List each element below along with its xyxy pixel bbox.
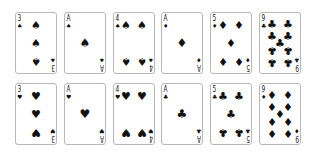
- heart-icon: ♥: [31, 91, 41, 102]
- card-3-of-hearts[interactable]: 3♥3♥♥♥♥: [15, 83, 57, 145]
- heart-icon: ♥: [137, 127, 147, 138]
- rank-label: 5: [245, 63, 249, 71]
- diamond-icon: ♦: [218, 20, 228, 31]
- card-a-of-clubs[interactable]: A♣A♣♣: [161, 83, 203, 145]
- rank-label: A: [99, 134, 103, 142]
- rank-label: A: [196, 134, 200, 142]
- club-icon: ♣: [234, 91, 244, 102]
- heart-icon: ♥: [17, 94, 22, 100]
- card-5-of-clubs[interactable]: 5♣5♣♣♣♣♣♣: [210, 83, 252, 145]
- club-icon: ♣: [283, 44, 293, 55]
- rank-label: 5: [245, 134, 249, 142]
- corner-index: A♥: [99, 128, 104, 142]
- club-icon: ♣: [261, 23, 266, 29]
- corner-index: 9♦: [294, 128, 299, 142]
- club-icon: ♣: [267, 44, 277, 55]
- heart-icon: ♥: [80, 108, 91, 120]
- corner-index: 3♠: [17, 15, 22, 29]
- diamond-icon: ♦: [218, 56, 228, 67]
- diamond-icon: ♦: [261, 94, 266, 100]
- diamond-icon: ♦: [267, 115, 277, 126]
- rank-label: 3: [18, 15, 22, 23]
- card-a-of-diamonds[interactable]: A♦A♦♦: [161, 12, 203, 74]
- spade-icon: ♠: [66, 23, 71, 29]
- rank-label: A: [99, 63, 103, 71]
- rank-label: 4: [148, 63, 152, 71]
- club-icon: ♣: [218, 91, 228, 102]
- corner-index: 4♥: [148, 128, 153, 142]
- diamond-icon: ♦: [283, 115, 293, 126]
- corner-index: 5♦: [245, 57, 250, 71]
- diamond-icon: ♦: [234, 20, 244, 31]
- club-icon: ♣: [234, 127, 244, 138]
- rank-label: 4: [116, 15, 120, 23]
- card-5-of-diamonds[interactable]: 5♦5♦♦♦♦♦♦: [210, 12, 252, 74]
- rank-label: 9: [294, 63, 298, 71]
- rank-label: 4: [148, 134, 152, 142]
- club-icon: ♣: [267, 57, 277, 68]
- corner-index: 3♥: [17, 86, 22, 100]
- club-icon: ♣: [163, 94, 168, 100]
- card-9-of-diamonds[interactable]: 9♦9♦♦♦♦♦♦♦♦♦♦: [259, 83, 301, 145]
- spade-icon: ♠: [137, 56, 147, 67]
- diamond-icon: ♦: [226, 38, 236, 49]
- club-icon: ♣: [283, 57, 293, 68]
- spade-icon: ♠: [80, 37, 91, 49]
- rank-label: A: [164, 86, 168, 94]
- spade-icon: ♠: [121, 56, 131, 67]
- corner-index: A♠: [99, 57, 104, 71]
- spade-icon: ♠: [121, 20, 131, 31]
- card-9-of-clubs[interactable]: 9♣9♣♣♣♣♣♣♣♣♣♣: [259, 12, 301, 74]
- corner-index: 9♣: [294, 57, 299, 71]
- rank-label: 3: [50, 63, 54, 71]
- club-icon: ♣: [212, 94, 217, 100]
- corner-index: 3♥: [50, 128, 55, 142]
- diamond-icon: ♦: [212, 23, 217, 29]
- rank-label: 5: [213, 15, 217, 23]
- rank-label: 3: [50, 134, 54, 142]
- rank-label: A: [67, 15, 71, 23]
- heart-icon: ♥: [31, 109, 41, 120]
- heart-icon: ♥: [121, 91, 131, 102]
- spade-icon: ♠: [137, 20, 147, 31]
- spade-icon: ♠: [31, 20, 41, 31]
- heart-icon: ♥: [115, 94, 120, 100]
- heart-icon: ♥: [31, 127, 41, 138]
- rank-label: 4: [116, 86, 120, 94]
- corner-index: 9♣: [261, 15, 266, 29]
- rank-label: 9: [294, 134, 298, 142]
- corner-index: 5♦: [212, 15, 217, 29]
- diamond-icon: ♦: [283, 89, 293, 100]
- corner-index: 4♠: [148, 57, 153, 71]
- corner-index: A♦: [196, 57, 201, 71]
- card-3-of-spades[interactable]: 3♠3♠♠♠♠: [15, 12, 57, 74]
- rank-label: 3: [18, 86, 22, 94]
- club-icon: ♣: [226, 109, 236, 120]
- diamond-icon: ♦: [267, 89, 277, 100]
- rank-label: 9: [262, 86, 266, 94]
- spade-icon: ♠: [31, 38, 41, 49]
- corner-index: 5♣: [212, 86, 217, 100]
- club-icon: ♣: [177, 108, 188, 120]
- heart-icon: ♥: [137, 91, 147, 102]
- diamond-icon: ♦: [234, 56, 244, 67]
- rank-label: 5: [213, 86, 217, 94]
- corner-index: 4♥: [115, 86, 120, 100]
- corner-index: A♦: [163, 15, 168, 29]
- rank-label: A: [196, 63, 200, 71]
- card-4-of-hearts[interactable]: 4♥4♥♥♥♥♥: [113, 83, 155, 145]
- heart-icon: ♥: [121, 127, 131, 138]
- corner-index: 9♦: [261, 86, 266, 100]
- club-icon: ♣: [267, 18, 277, 29]
- card-a-of-hearts[interactable]: A♥A♥♥: [64, 83, 106, 145]
- corner-index: 4♠: [115, 15, 120, 29]
- diamond-icon: ♦: [163, 23, 168, 29]
- rank-label: 9: [262, 15, 266, 23]
- corner-index: 5♣: [245, 128, 250, 142]
- rank-label: A: [67, 86, 71, 94]
- spade-icon: ♠: [31, 56, 41, 67]
- corner-index: A♥: [66, 86, 71, 100]
- card-a-of-spades[interactable]: A♠A♠♠: [64, 12, 106, 74]
- corner-index: A♣: [163, 86, 168, 100]
- card-4-of-spades[interactable]: 4♠4♠♠♠♠♠: [113, 12, 155, 74]
